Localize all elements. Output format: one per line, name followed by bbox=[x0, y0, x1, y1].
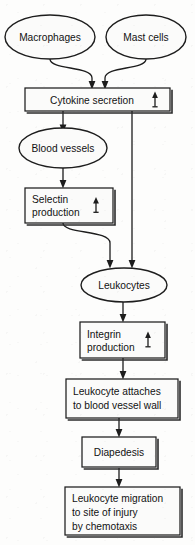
node-selectin-production-line1: Selectin bbox=[32, 194, 68, 205]
node-diapedesis[interactable]: Diapedesis bbox=[82, 437, 158, 469]
node-macrophages[interactable]: Macrophages bbox=[5, 15, 95, 59]
node-leukocyte-attaches-line2: to blood vessel wall bbox=[73, 400, 161, 411]
node-leukocytes-label: Leukocytes bbox=[98, 280, 150, 291]
node-integrin-production-line1: Integrin bbox=[87, 329, 121, 340]
node-selectin-production[interactable]: Selectin production bbox=[25, 188, 115, 225]
node-leukocyte-migration-line2: to site of injury bbox=[72, 507, 139, 518]
node-integrin-production[interactable]: Integrin production bbox=[80, 322, 167, 360]
edge-attaches-to-diapedesis bbox=[116, 418, 123, 438]
edge-mast-cells-to-cytokine bbox=[102, 59, 146, 90]
node-leukocyte-attaches-line1: Leukocyte attaches bbox=[73, 386, 161, 397]
node-mast-cells[interactable]: Mast cells bbox=[106, 15, 186, 59]
node-macrophages-label: Macrophages bbox=[19, 32, 81, 43]
edge-selectin-to-leukocytes bbox=[63, 223, 113, 269]
node-cytokine-secretion[interactable]: Cytokine secretion bbox=[25, 88, 172, 113]
edge-blood-vessels-to-selectin bbox=[60, 168, 67, 189]
edge-integrin-to-attaches bbox=[120, 358, 127, 380]
node-blood-vessels[interactable]: Blood vessels bbox=[19, 128, 107, 168]
node-leukocyte-migration-line1: Leukocyte migration bbox=[72, 493, 163, 504]
node-diapedesis-label: Diapedesis bbox=[94, 447, 144, 458]
node-selectin-production-line2: production bbox=[32, 207, 80, 218]
edge-macrophages-to-cytokine bbox=[50, 59, 95, 90]
node-cytokine-secretion-label: Cytokine secretion bbox=[50, 95, 134, 106]
node-integrin-production-line2: production bbox=[87, 342, 135, 353]
node-leukocyte-migration-line3: by chemotaxis bbox=[72, 521, 137, 532]
edge-leukocytes-to-integrin bbox=[120, 301, 127, 323]
edge-diapedesis-to-migration bbox=[116, 468, 123, 488]
node-mast-cells-label: Mast cells bbox=[123, 32, 168, 43]
flowchart-diagram: Macrophages Mast cells Cytokine secretio… bbox=[0, 0, 195, 545]
flowchart-canvas: Macrophages Mast cells Cytokine secretio… bbox=[0, 0, 195, 545]
node-leukocyte-attaches[interactable]: Leukocyte attaches to blood vessel wall bbox=[66, 379, 180, 420]
edge-cytokine-to-leukocytes bbox=[129, 111, 136, 269]
node-blood-vessels-label: Blood vessels bbox=[32, 143, 95, 154]
node-leukocytes[interactable]: Leukocytes bbox=[81, 268, 167, 302]
node-leukocyte-migration[interactable]: Leukocyte migration to site of injury by… bbox=[65, 487, 182, 537]
